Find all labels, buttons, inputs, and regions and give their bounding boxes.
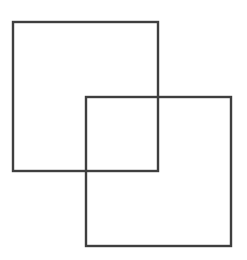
diagram-canvas xyxy=(0,0,247,260)
overlapping-squares-diagram xyxy=(0,0,247,260)
